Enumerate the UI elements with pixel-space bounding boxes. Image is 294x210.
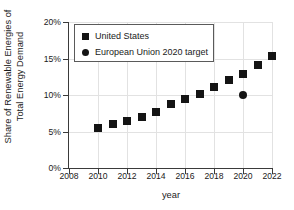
circle-marker-icon: [82, 49, 89, 56]
y-tick-label: 15%: [2, 54, 61, 64]
gridline-horizontal: [69, 22, 272, 23]
data-point-marker: [210, 83, 218, 91]
data-point-marker: [268, 52, 276, 60]
data-point-marker: [94, 124, 102, 132]
data-point-marker: [196, 90, 204, 98]
x-tick-label: 2022: [255, 171, 289, 181]
data-point-marker: [254, 61, 262, 69]
data-point-marker: [225, 76, 233, 84]
data-point-marker: [239, 91, 247, 99]
y-tick-label: 5%: [2, 127, 61, 137]
y-tick-mark: [63, 132, 69, 133]
data-point-marker: [123, 117, 131, 125]
legend-label: European Union 2020 target: [95, 47, 208, 57]
y-tick-label: 20%: [2, 17, 61, 27]
y-tick-label: 10%: [2, 90, 61, 100]
data-point-marker: [239, 70, 247, 78]
gridline-vertical: [272, 22, 273, 168]
y-tick-mark: [63, 22, 69, 23]
data-point-marker: [138, 113, 146, 121]
legend-item-eu-target: European Union 2020 target: [82, 46, 208, 58]
legend-item-united-states: United States: [82, 30, 149, 42]
gridline-vertical: [214, 22, 215, 168]
data-point-marker: [181, 95, 189, 103]
data-point-marker: [167, 100, 175, 108]
chart-legend: United States European Union 2020 target: [74, 24, 214, 62]
data-point-marker: [152, 108, 160, 116]
y-tick-mark: [63, 95, 69, 96]
x-axis-title: year: [69, 190, 273, 200]
legend-label: United States: [95, 31, 149, 41]
data-point-marker: [109, 120, 117, 128]
renewable-energy-share-chart: Share of Renewable Energies of Total Ene…: [0, 0, 294, 210]
square-marker-icon: [82, 33, 89, 40]
y-tick-mark: [63, 59, 69, 60]
